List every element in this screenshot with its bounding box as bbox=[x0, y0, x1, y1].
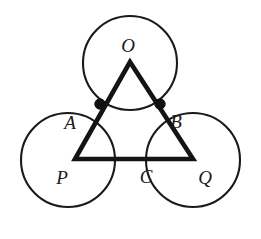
marked-point-a bbox=[95, 99, 105, 109]
label-q: Q bbox=[198, 168, 212, 187]
label-b: B bbox=[170, 112, 182, 131]
geometry-diagram: O A B P C Q bbox=[0, 0, 261, 239]
label-p: P bbox=[56, 168, 68, 187]
marked-point-b bbox=[155, 99, 165, 109]
label-o: O bbox=[121, 36, 135, 55]
label-a: A bbox=[64, 113, 76, 132]
label-c: C bbox=[140, 167, 153, 186]
